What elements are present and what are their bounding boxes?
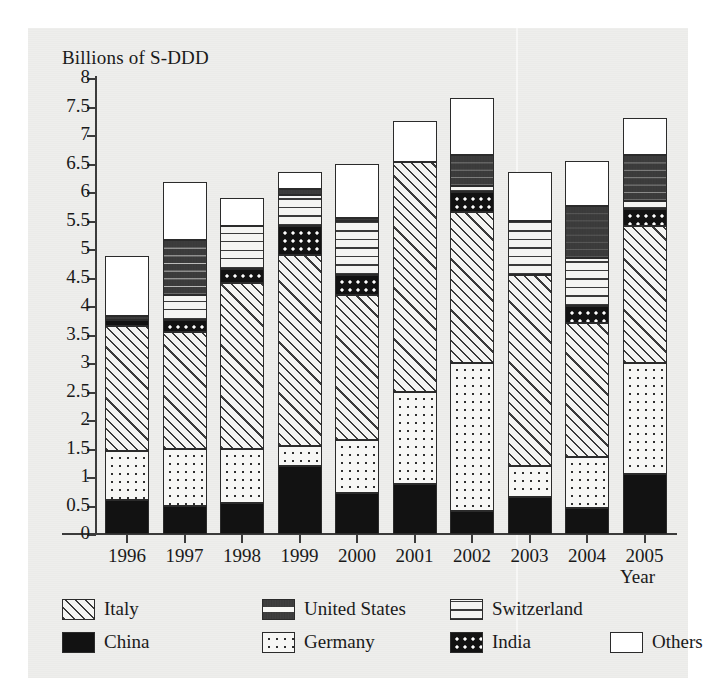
x-tick-mark: [356, 535, 358, 543]
bar-segment-germany[interactable]: [565, 457, 609, 508]
bar-segment-united-states[interactable]: [335, 218, 379, 221]
bar-segment-china[interactable]: [508, 497, 552, 534]
bar-segment-germany[interactable]: [623, 363, 667, 474]
y-tick-label: 3.5: [66, 323, 90, 345]
bar-segment-switzerland[interactable]: [508, 221, 552, 275]
legend-row-1: ItalyUnited StatesSwitzerland: [62, 598, 662, 631]
bar-segment-china[interactable]: [623, 474, 667, 534]
bar-segment-switzerland[interactable]: [565, 258, 609, 306]
bar-segment-germany[interactable]: [278, 446, 322, 466]
bar-segment-others[interactable]: [393, 121, 437, 163]
legend-item-italy[interactable]: Italy: [62, 598, 139, 620]
stacked-bar[interactable]: [105, 256, 149, 534]
bar-segment-italy[interactable]: [450, 212, 494, 363]
bar-segment-india[interactable]: [335, 275, 379, 295]
bar-segment-italy[interactable]: [393, 162, 437, 391]
solid-black-swatch: [62, 632, 95, 653]
stacked-bar[interactable]: [393, 121, 437, 534]
bar-segment-united-states[interactable]: [163, 240, 207, 294]
chart-legend: ItalyUnited StatesSwitzerland ChinaGerma…: [62, 598, 662, 664]
legend-item-china[interactable]: China: [62, 631, 149, 653]
bar-segment-china[interactable]: [393, 484, 437, 534]
bar-segment-italy[interactable]: [278, 255, 322, 446]
bar-segment-others[interactable]: [450, 98, 494, 155]
x-tick-mark: [184, 535, 186, 543]
y-tick-label: 0.5: [66, 494, 90, 516]
bar-segment-italy[interactable]: [163, 332, 207, 449]
bar-segment-others[interactable]: [508, 172, 552, 220]
bar-segment-italy[interactable]: [508, 275, 552, 466]
bar-segment-india[interactable]: [220, 269, 264, 283]
bar-segment-italy[interactable]: [623, 226, 667, 363]
y-tick-label: 8: [81, 66, 91, 88]
bar-segment-china[interactable]: [163, 506, 207, 535]
bar-segment-germany[interactable]: [220, 449, 264, 503]
horizontal-lines-swatch: [450, 599, 483, 620]
bar-segment-others[interactable]: [623, 118, 667, 155]
stacked-bar[interactable]: [163, 182, 207, 534]
bar-segment-india[interactable]: [565, 306, 609, 323]
legend-item-germany[interactable]: Germany: [262, 631, 375, 653]
bar-segment-others[interactable]: [335, 164, 379, 218]
bar-segment-switzerland[interactable]: [450, 186, 494, 192]
bar-segment-switzerland[interactable]: [623, 201, 667, 210]
y-tick-label: 2.5: [66, 380, 90, 402]
sparse-dots-swatch: [262, 632, 295, 653]
bar-segment-united-states[interactable]: [565, 206, 609, 257]
bar-segment-italy[interactable]: [335, 295, 379, 440]
legend-label: Others: [652, 631, 703, 653]
bar-segment-italy[interactable]: [220, 283, 264, 448]
bar-segment-india[interactable]: [623, 209, 667, 226]
stacked-bar[interactable]: [450, 98, 494, 534]
bar-segment-china[interactable]: [105, 500, 149, 534]
y-tick-label: 4: [81, 294, 91, 316]
bar-segment-switzerland[interactable]: [278, 195, 322, 226]
legend-item-india[interactable]: India: [450, 631, 531, 653]
stacked-bar[interactable]: [278, 172, 322, 534]
bar-segment-united-states[interactable]: [623, 155, 667, 201]
y-tick-label: 1: [81, 465, 91, 487]
bar-segment-others[interactable]: [163, 182, 207, 240]
bar-segment-china[interactable]: [565, 508, 609, 534]
bar-segment-others[interactable]: [278, 172, 322, 189]
legend-item-others[interactable]: Others: [610, 631, 703, 653]
bar-segment-germany[interactable]: [450, 363, 494, 511]
stacked-bar[interactable]: [220, 198, 264, 534]
bar-segment-switzerland[interactable]: [220, 226, 264, 269]
bar-segment-others[interactable]: [105, 256, 149, 316]
bar-segment-switzerland[interactable]: [335, 221, 379, 275]
x-tick-label: 1999: [281, 545, 319, 567]
bar-segment-switzerland[interactable]: [163, 295, 207, 321]
bar-segment-india[interactable]: [278, 226, 322, 255]
stacked-bar[interactable]: [623, 118, 667, 534]
bar-segment-united-states[interactable]: [278, 189, 322, 195]
bar-segment-india[interactable]: [450, 192, 494, 212]
stacked-bar[interactable]: [508, 172, 552, 534]
legend-label: Germany: [304, 631, 375, 653]
bar-segment-china[interactable]: [278, 466, 322, 534]
bar-segment-others[interactable]: [565, 161, 609, 207]
bar-segment-italy[interactable]: [565, 323, 609, 457]
white-swatch: [610, 632, 643, 653]
bar-segment-germany[interactable]: [105, 451, 149, 499]
bar-segment-italy[interactable]: [105, 326, 149, 451]
legend-label: India: [492, 631, 531, 653]
bar-segment-united-states[interactable]: [105, 316, 149, 320]
stacked-bar[interactable]: [565, 161, 609, 534]
bar-segment-china[interactable]: [220, 503, 264, 534]
stacked-bar[interactable]: [335, 164, 379, 535]
bar-segment-germany[interactable]: [335, 440, 379, 493]
bar-segment-united-states[interactable]: [450, 155, 494, 186]
bar-segment-china[interactable]: [335, 493, 379, 534]
bar-segment-germany[interactable]: [163, 449, 207, 506]
bar-segment-germany[interactable]: [508, 466, 552, 497]
bar-segment-china[interactable]: [450, 511, 494, 534]
legend-item-switzerland[interactable]: Switzerland: [450, 598, 583, 620]
bar-segment-india[interactable]: [105, 320, 149, 326]
bar-segment-india[interactable]: [163, 320, 207, 331]
legend-item-united-states[interactable]: United States: [262, 598, 406, 620]
bar-segment-germany[interactable]: [393, 392, 437, 484]
y-tick-label: 6.5: [66, 152, 90, 174]
y-tick-label: 5.5: [66, 209, 90, 231]
bar-segment-others[interactable]: [220, 198, 264, 227]
